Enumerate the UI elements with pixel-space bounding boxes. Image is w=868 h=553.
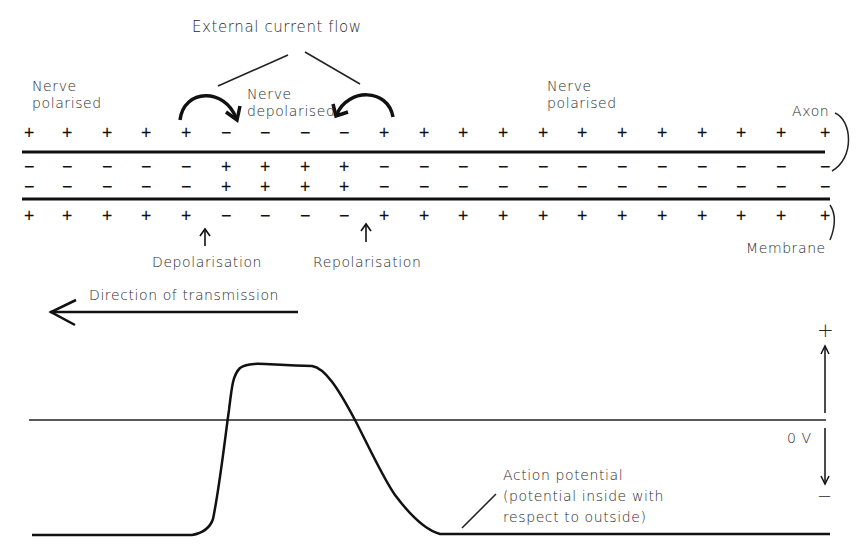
plus-charge-icon: +	[21, 207, 37, 224]
voltage-axis-plus-label: +	[817, 322, 834, 339]
plus-charge-icon: +	[535, 124, 551, 141]
minus-charge-icon: −	[733, 158, 749, 175]
plus-charge-icon: +	[817, 207, 833, 224]
minus-charge-icon: −	[495, 178, 511, 195]
plus-charge-icon: +	[99, 124, 115, 141]
plus-charge-icon: +	[416, 124, 432, 141]
depolarisation-label: Depolarisation	[152, 254, 262, 271]
plus-charge-icon: +	[574, 124, 590, 141]
minus-charge-icon: −	[614, 158, 630, 175]
minus-charge-icon: −	[257, 124, 273, 141]
minus-charge-icon: −	[257, 207, 273, 224]
minus-charge-icon: −	[416, 178, 432, 195]
minus-charge-icon: −	[376, 178, 392, 195]
plus-charge-icon: +	[694, 207, 710, 224]
plus-charge-icon: +	[817, 124, 833, 141]
minus-charge-icon: −	[297, 124, 313, 141]
minus-charge-icon: −	[376, 158, 392, 175]
external-current-flow-label: External current flow	[192, 19, 362, 36]
axon-bracket-icon	[832, 113, 849, 171]
plus-charge-icon: +	[178, 207, 194, 224]
minus-charge-icon: −	[336, 207, 352, 224]
plus-charge-icon: +	[773, 124, 789, 141]
minus-charge-icon: −	[614, 178, 630, 195]
plus-charge-icon: +	[218, 178, 234, 195]
plus-charge-icon: +	[336, 178, 352, 195]
current-arrow-left-icon	[180, 96, 240, 120]
action-potential-label: Action potential (potential inside with …	[503, 465, 664, 528]
nerve-polarised-right-label: Nerve polarised	[547, 78, 617, 112]
membrane-label: Membrane	[746, 240, 826, 257]
plus-charge-icon: +	[59, 124, 75, 141]
plus-charge-icon: +	[257, 158, 273, 175]
plus-charge-icon: +	[138, 207, 154, 224]
axon-label: Axon	[792, 103, 829, 120]
minus-charge-icon: −	[21, 158, 37, 175]
minus-charge-icon: −	[59, 178, 75, 195]
nerve-depolarised-label: Nerve depolarised	[247, 86, 335, 120]
plus-charge-icon: +	[416, 207, 432, 224]
plus-charge-icon: +	[59, 207, 75, 224]
current-arrow-right-icon	[333, 95, 393, 117]
plus-charge-icon: +	[455, 207, 471, 224]
diagram-lines	[0, 0, 868, 553]
pointer-line-left	[218, 55, 288, 86]
minus-charge-icon: −	[654, 158, 670, 175]
plus-charge-icon: +	[495, 207, 511, 224]
plus-charge-icon: +	[614, 207, 630, 224]
minus-charge-icon: −	[59, 158, 75, 175]
plus-charge-icon: +	[21, 124, 37, 141]
minus-charge-icon: −	[218, 124, 234, 141]
action-potential-pointer	[462, 494, 496, 528]
minus-charge-icon: −	[574, 178, 590, 195]
minus-charge-icon: −	[733, 178, 749, 195]
minus-charge-icon: −	[495, 158, 511, 175]
minus-charge-icon: −	[694, 158, 710, 175]
plus-charge-icon: +	[614, 124, 630, 141]
minus-charge-icon: −	[336, 124, 352, 141]
minus-charge-icon: −	[297, 207, 313, 224]
plus-charge-icon: +	[733, 124, 749, 141]
pointer-line-right	[305, 52, 360, 84]
repolarisation-arrow-icon	[361, 224, 371, 242]
minus-charge-icon: −	[817, 178, 833, 195]
plus-charge-icon: +	[218, 158, 234, 175]
repolarisation-label: Repolarisation	[313, 254, 421, 271]
depolarisation-arrow-icon	[200, 229, 210, 246]
minus-charge-icon: −	[773, 158, 789, 175]
plus-charge-icon: +	[455, 124, 471, 141]
minus-charge-icon: −	[535, 158, 551, 175]
plus-charge-icon: +	[257, 178, 273, 195]
voltage-axis-minus-label: −	[817, 487, 833, 504]
plus-charge-icon: +	[138, 124, 154, 141]
direction-of-transmission-label: Direction of transmission	[89, 287, 279, 304]
plus-charge-icon: +	[297, 158, 313, 175]
minus-charge-icon: −	[817, 158, 833, 175]
voltage-axis-down-arrow-icon	[821, 428, 829, 484]
plus-charge-icon: +	[654, 124, 670, 141]
minus-charge-icon: −	[574, 158, 590, 175]
minus-charge-icon: −	[218, 207, 234, 224]
minus-charge-icon: −	[178, 158, 194, 175]
plus-charge-icon: +	[535, 207, 551, 224]
nerve-polarised-left-label: Nerve polarised	[32, 78, 102, 112]
plus-charge-icon: +	[376, 207, 392, 224]
minus-charge-icon: −	[99, 158, 115, 175]
plus-charge-icon: +	[376, 124, 392, 141]
plus-charge-icon: +	[99, 207, 115, 224]
action-potential-curve	[32, 364, 830, 535]
minus-charge-icon: −	[535, 178, 551, 195]
minus-charge-icon: −	[138, 178, 154, 195]
zero-volts-label: 0 V	[787, 430, 812, 447]
minus-charge-icon: −	[416, 158, 432, 175]
plus-charge-icon: +	[178, 124, 194, 141]
plus-charge-icon: +	[773, 207, 789, 224]
plus-charge-icon: +	[654, 207, 670, 224]
voltage-axis-up-arrow-icon	[821, 346, 829, 413]
plus-charge-icon: +	[297, 178, 313, 195]
plus-charge-icon: +	[574, 207, 590, 224]
plus-charge-icon: +	[495, 124, 511, 141]
minus-charge-icon: −	[21, 178, 37, 195]
plus-charge-icon: +	[694, 124, 710, 141]
minus-charge-icon: −	[773, 178, 789, 195]
